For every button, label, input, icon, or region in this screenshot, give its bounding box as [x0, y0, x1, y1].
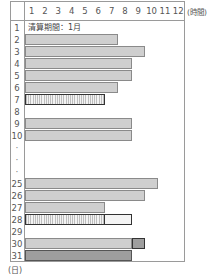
ellipsis-row-label: · — [10, 143, 24, 153]
work-hours-bar-gray — [25, 190, 145, 201]
x-axis-unit-label: (時間) — [187, 6, 207, 17]
work-hours-bar-gray — [25, 34, 118, 45]
ellipsis-row-label: · — [10, 155, 24, 165]
day-row-label: 5 — [10, 71, 24, 81]
work-hours-bar-gray — [25, 118, 132, 129]
day-row-label: 4 — [10, 59, 24, 69]
day-row-label: 27 — [10, 203, 24, 213]
y-axis-unit-label: (日) — [8, 264, 22, 275]
day-row-label: 8 — [10, 107, 24, 117]
work-hours-bar-hatch — [25, 94, 105, 105]
work-hours-bar-gray — [25, 238, 132, 249]
day-row-label: 28 — [10, 215, 24, 225]
hour-tick-label: 8 — [118, 6, 132, 16]
hour-tick-label: 6 — [91, 6, 105, 16]
ellipsis-row-label: · — [10, 167, 24, 177]
day-row-label: 30 — [10, 239, 24, 249]
settlement-period-label: 清算期間：1月 — [28, 21, 81, 32]
hour-tick-label: 11 — [158, 6, 172, 16]
hour-tick-label: 1 — [25, 6, 39, 16]
day-row-label: 1 — [10, 23, 24, 33]
work-hours-bar-hatch — [25, 214, 105, 225]
hour-tick-label: 4 — [65, 6, 79, 16]
day-row-label: 31 — [10, 251, 24, 261]
work-hours-bar-gray — [25, 178, 158, 189]
work-hours-bar-gray — [25, 46, 145, 57]
hour-tick-label: 12 — [171, 6, 185, 16]
day-row-label: 26 — [10, 191, 24, 201]
work-hours-bar-gray — [25, 70, 132, 81]
work-hours-bar-dark — [25, 250, 132, 261]
day-row-label: 29 — [10, 227, 24, 237]
hour-tick-label: 9 — [131, 6, 145, 16]
work-hours-bar-gray — [25, 82, 118, 93]
work-hours-bar-gray — [25, 130, 132, 141]
work-hours-bar-gray — [25, 58, 132, 69]
hour-tick-label: 5 — [78, 6, 92, 16]
day-row-label: 9 — [10, 119, 24, 129]
hour-tick-label: 7 — [105, 6, 119, 16]
day-row-label: 3 — [10, 47, 24, 57]
day-row-label: 10 — [10, 131, 24, 141]
day-row-label: 25 — [10, 179, 24, 189]
work-hours-bar-gray — [25, 202, 105, 213]
hour-tick-label: 2 — [38, 6, 52, 16]
day-row-label: 7 — [10, 95, 24, 105]
day-row-label: 2 — [10, 35, 24, 45]
hour-tick-label: 3 — [51, 6, 65, 16]
work-hours-bar-dotted — [105, 214, 132, 225]
day-row-label: 6 — [10, 83, 24, 93]
work-hours-bar-darkbox — [132, 238, 145, 249]
hour-tick-label: 10 — [145, 6, 159, 16]
